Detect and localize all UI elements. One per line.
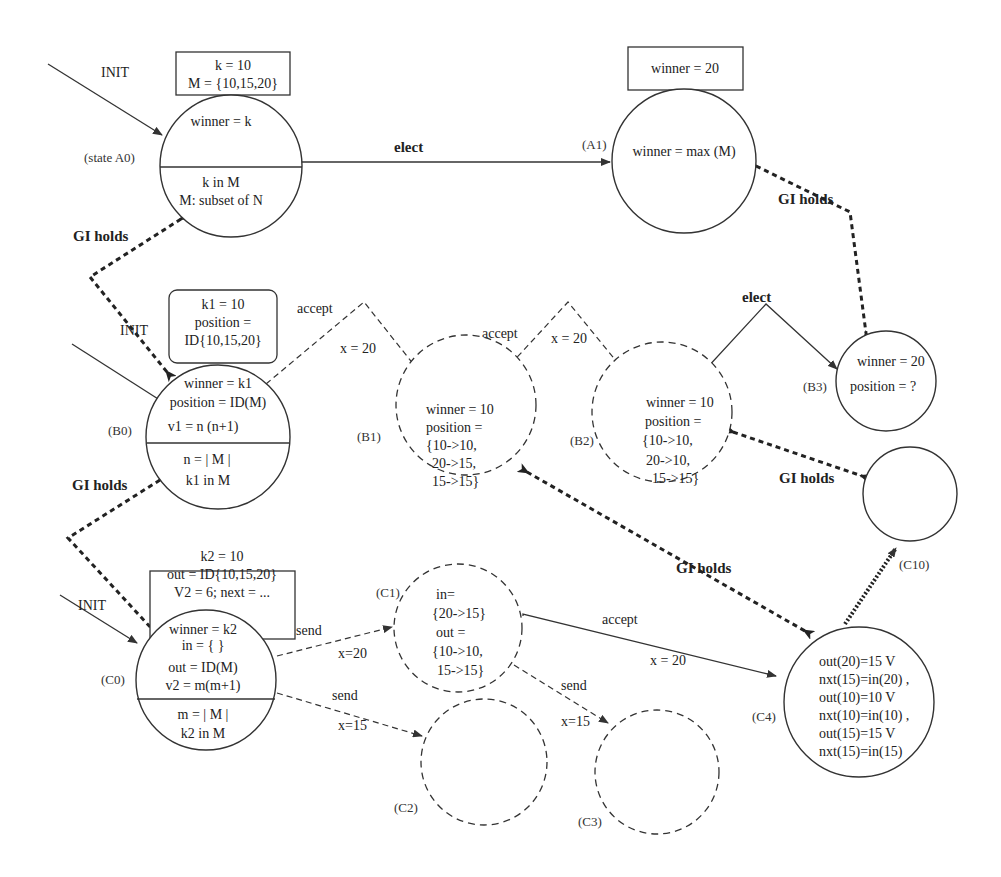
accept-arrow-c1-c4: accept x = 20 [523,612,776,676]
state-c4-text: out(20)=15 V [819,654,895,670]
state-c0[interactable]: k2 = 10 out = ID{10,15,20} V2 = 6; next … [101,549,295,750]
state-a0-box-line: k = 10 [215,58,251,73]
state-b2-text: {10->10, [642,433,693,448]
state-b0-box-line: ID{10,15,20} [184,333,261,348]
state-c4-text: nxt(10)=in(10) , [819,708,909,724]
state-b1-text: winner = 10 [426,402,494,417]
state-c0-text: m = | M | [178,707,229,722]
state-b3-text: position = ? [850,379,916,394]
state-c1-text: {20->15} [432,606,486,621]
state-c1[interactable]: in= {20->15} out = {10->10, 15->15} (C1) [376,564,522,692]
state-c10-label: (C10) [899,557,929,572]
refinement-arrow-c4-c10 [845,548,896,624]
edge-guard-accept-c1-c4: x = 20 [650,653,686,668]
edge-label-send-c0-c1: send [296,623,322,638]
edge-label-init-b0: INIT [120,323,148,338]
state-c1-text: {10->10, [432,644,483,659]
state-c3[interactable]: (C3) [578,710,719,834]
gi-holds-label-b2-c10: GI holds [779,470,835,486]
state-c1-text: in= [436,587,455,602]
state-b3[interactable]: winner = 20 position = ? (B3) [803,331,936,431]
gi-holds-b2-c10: GI holds [733,432,862,486]
state-a0-text: k in M [202,175,240,190]
state-c4-text: nxt(15)=in(15) [819,744,903,760]
state-b0-text: position = ID(M) [170,395,267,411]
init-arrow-c0: INIT [60,595,137,643]
state-c4-label: (C4) [752,709,776,724]
edge-label-elect-a0-a1: elect [394,139,423,155]
state-c0-text: winner = k2 [169,622,237,637]
state-c4-text: out(10)=10 V [819,690,895,706]
state-b1-label: (B1) [357,429,381,444]
state-c0-text: k2 in M [181,726,226,741]
gi-holds-label-a1-b3: GI holds [778,191,834,207]
gi-holds-label-b0-c0: GI holds [72,477,128,493]
state-c0-text: in = { } [182,638,225,653]
state-c1-text: out = [436,625,465,640]
state-c4[interactable]: out(20)=15 V nxt(15)=in(20) , out(10)=10… [752,627,934,777]
gi-holds-a0-b0: GI holds [73,219,181,372]
edge-label-send-c1-c3: send [561,678,587,693]
edge-guard-send-c1-c3: x=15 [561,714,590,729]
edge-label-init-c0: INIT [78,598,106,613]
send-arrow-c0-c2: send x=15 [277,688,422,736]
state-b1-text: position = [426,420,483,435]
state-b0-label: (B0) [108,423,132,438]
elect-arrow-a0-a1: elect [301,139,610,162]
state-c10[interactable]: (C10) [863,447,957,572]
state-a1-box-line: winner = 20 [651,61,719,76]
state-c0-text: out = ID(M) [168,660,238,676]
state-c0-label: (C0) [101,672,125,687]
state-a0-text: winner = k [191,114,252,129]
state-a1-text: winner = max (M) [632,144,735,160]
state-b2-text: winner = 10 [646,395,714,410]
state-c0-box-line: k2 = 10 [201,549,244,564]
state-b0-box-line: position = [195,315,252,330]
state-c4-text: out(15)=15 V [819,726,895,742]
edge-guard-accept-b0-b1: x = 20 [340,341,376,356]
state-refinement-diagram: INIT INIT INIT elect accept x = 20 accep… [0,0,1001,877]
gi-holds-label-b1-c4: GI holds [676,560,732,576]
state-c2-circle [421,699,547,825]
state-a1[interactable]: winner = 20 winner = max (M) (A1) [582,47,756,233]
edge-guard-send-c0-c2: x=15 [338,718,367,733]
state-b0-text: n = | M | [184,452,231,467]
init-arrow-a0: INIT [48,64,162,135]
state-c3-label: (C3) [578,814,602,829]
state-b1[interactable]: winner = 10 position = {10->10, 20->15, … [357,335,536,489]
state-b0-text: winner = k1 [184,376,252,391]
state-b2-text: 15->15} [652,471,699,486]
state-b0-text: k1 in M [186,473,231,488]
state-a0-label: (state A0) [84,150,135,165]
state-b2-text: position = [645,414,702,429]
state-c0-box-line: out = ID{10,15,20} [167,567,277,582]
edge-guard-accept-b1-b2: x = 20 [551,331,587,346]
state-c2[interactable]: (C2) [394,699,547,825]
gi-holds-label-a0-b0: GI holds [73,228,129,244]
gi-holds-b1-c4: GI holds [527,472,805,631]
state-c0-box-line: V2 = 6; next = ... [174,585,270,600]
state-b1-text: 20->15, [432,456,476,471]
init-arrow-b0: INIT [72,323,166,404]
state-b3-text: winner = 20 [857,354,925,369]
edge-label-elect-b2-b3: elect [742,289,771,305]
state-a0-text: M: subset of N [179,193,263,208]
state-c4-text: nxt(15)=in(20) , [819,672,909,688]
state-c1-label: (C1) [376,585,400,600]
state-b1-text: {10->10, [426,438,477,453]
state-c2-label: (C2) [394,800,418,815]
state-b3-label: (B3) [803,379,827,394]
state-b2-label: (B2) [570,433,594,448]
state-c1-text: 15->15} [437,663,484,678]
state-b2-text: 20->10, [646,453,690,468]
edge-label-init-a0: INIT [101,65,129,80]
state-c0-text: v2 = m(m+1) [166,678,241,694]
edge-label-send-c0-c2: send [332,688,358,703]
state-b2[interactable]: winner = 10 position = {10->10, 20->10, … [570,342,732,486]
accept-arrow-b0-b1: accept x = 20 [266,301,422,384]
state-a0-box-line: M = {10,15,20} [188,76,278,91]
state-b0-box-line: k1 = 10 [202,297,245,312]
gi-holds-a1-b3: GI holds [756,166,866,333]
state-a1-circle [612,89,756,233]
state-c3-circle [595,710,719,834]
